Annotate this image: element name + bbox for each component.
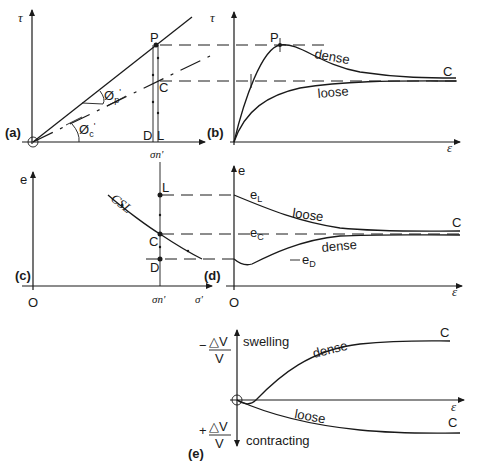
upper-dv: △V xyxy=(209,334,228,349)
upper-v: V xyxy=(215,351,224,366)
plus-sign: + xyxy=(199,423,207,438)
critical-envelope-line xyxy=(33,56,210,142)
loose-label-e: loose xyxy=(293,406,326,426)
phi-p-label: Øp' xyxy=(104,87,121,105)
point-l-label: L xyxy=(157,128,164,143)
e-d-label: eD xyxy=(302,252,316,269)
minus-sign: − xyxy=(199,338,207,353)
phi-c-label: Øc' xyxy=(79,121,96,139)
c-point-d-label: D xyxy=(150,260,159,275)
e-l-label: eL xyxy=(250,187,262,204)
peak-label: P xyxy=(270,30,279,45)
contracting-label: contracting xyxy=(246,433,310,448)
end-label-dense-e: C xyxy=(440,325,449,340)
csl-label: CSL xyxy=(108,191,135,217)
panel-b-x-label: ε xyxy=(447,140,453,155)
e-c-label: eC xyxy=(250,225,264,242)
point-p-label: P xyxy=(150,30,159,45)
panel-e: C C dense loose swelling contracting − △… xyxy=(188,325,464,461)
dense-label: dense xyxy=(313,46,350,67)
end-label-c-d: C xyxy=(452,215,461,230)
curve-loose-d xyxy=(234,195,460,231)
panel-d-origin: O xyxy=(229,295,239,310)
panel-e-x-label: ε xyxy=(451,399,457,414)
point-d-label: D xyxy=(143,128,152,143)
panel-a-label: (a) xyxy=(5,125,21,140)
panel-c-x-label: σ' xyxy=(195,293,203,305)
loose-label-d: loose xyxy=(292,205,325,224)
panel-d-label: (d) xyxy=(204,268,221,283)
panel-a-y-label: τ xyxy=(18,10,24,25)
panel-a-x-tick: σn' xyxy=(150,148,164,160)
soil-behaviour-diagram: P C D L Øp' Øc' τ σn' (a) P C dense loos… xyxy=(0,0,477,464)
panel-d-y-label: e xyxy=(238,163,245,178)
panel-c-y-label: e xyxy=(20,172,27,187)
loose-label: loose xyxy=(317,83,349,101)
lower-v: V xyxy=(215,436,224,451)
end-label-loose-e: C xyxy=(448,415,457,430)
c-point-c-label: C xyxy=(149,234,158,249)
panel-d: eL eC eD loose dense C e O ε (d) xyxy=(204,163,462,310)
panel-a: P C D L Øp' Øc' τ σn' (a) xyxy=(5,10,210,160)
dense-label-d: dense xyxy=(321,237,358,255)
panel-b-y-label: τ xyxy=(210,10,216,25)
panel-e-label: (e) xyxy=(188,446,204,461)
point-c-label: C xyxy=(159,80,168,95)
panel-c: L C D CSL e O σn' σ' (c) xyxy=(15,162,212,310)
panel-b: P C dense loose τ ε (b) xyxy=(207,10,460,155)
lower-dv: △V xyxy=(209,419,228,434)
panel-b-label: (b) xyxy=(207,125,224,140)
panel-d-x-label: ε xyxy=(452,284,458,299)
c-point-l-label: L xyxy=(162,180,169,195)
swelling-label: swelling xyxy=(243,334,289,349)
panel-c-x-tick: σn' xyxy=(152,293,166,305)
panel-c-label: (c) xyxy=(15,268,31,283)
curve-loose-e xyxy=(237,400,460,433)
panel-c-origin: O xyxy=(28,295,38,310)
dense-label-e: dense xyxy=(311,338,349,361)
end-label-c: C xyxy=(443,64,452,79)
